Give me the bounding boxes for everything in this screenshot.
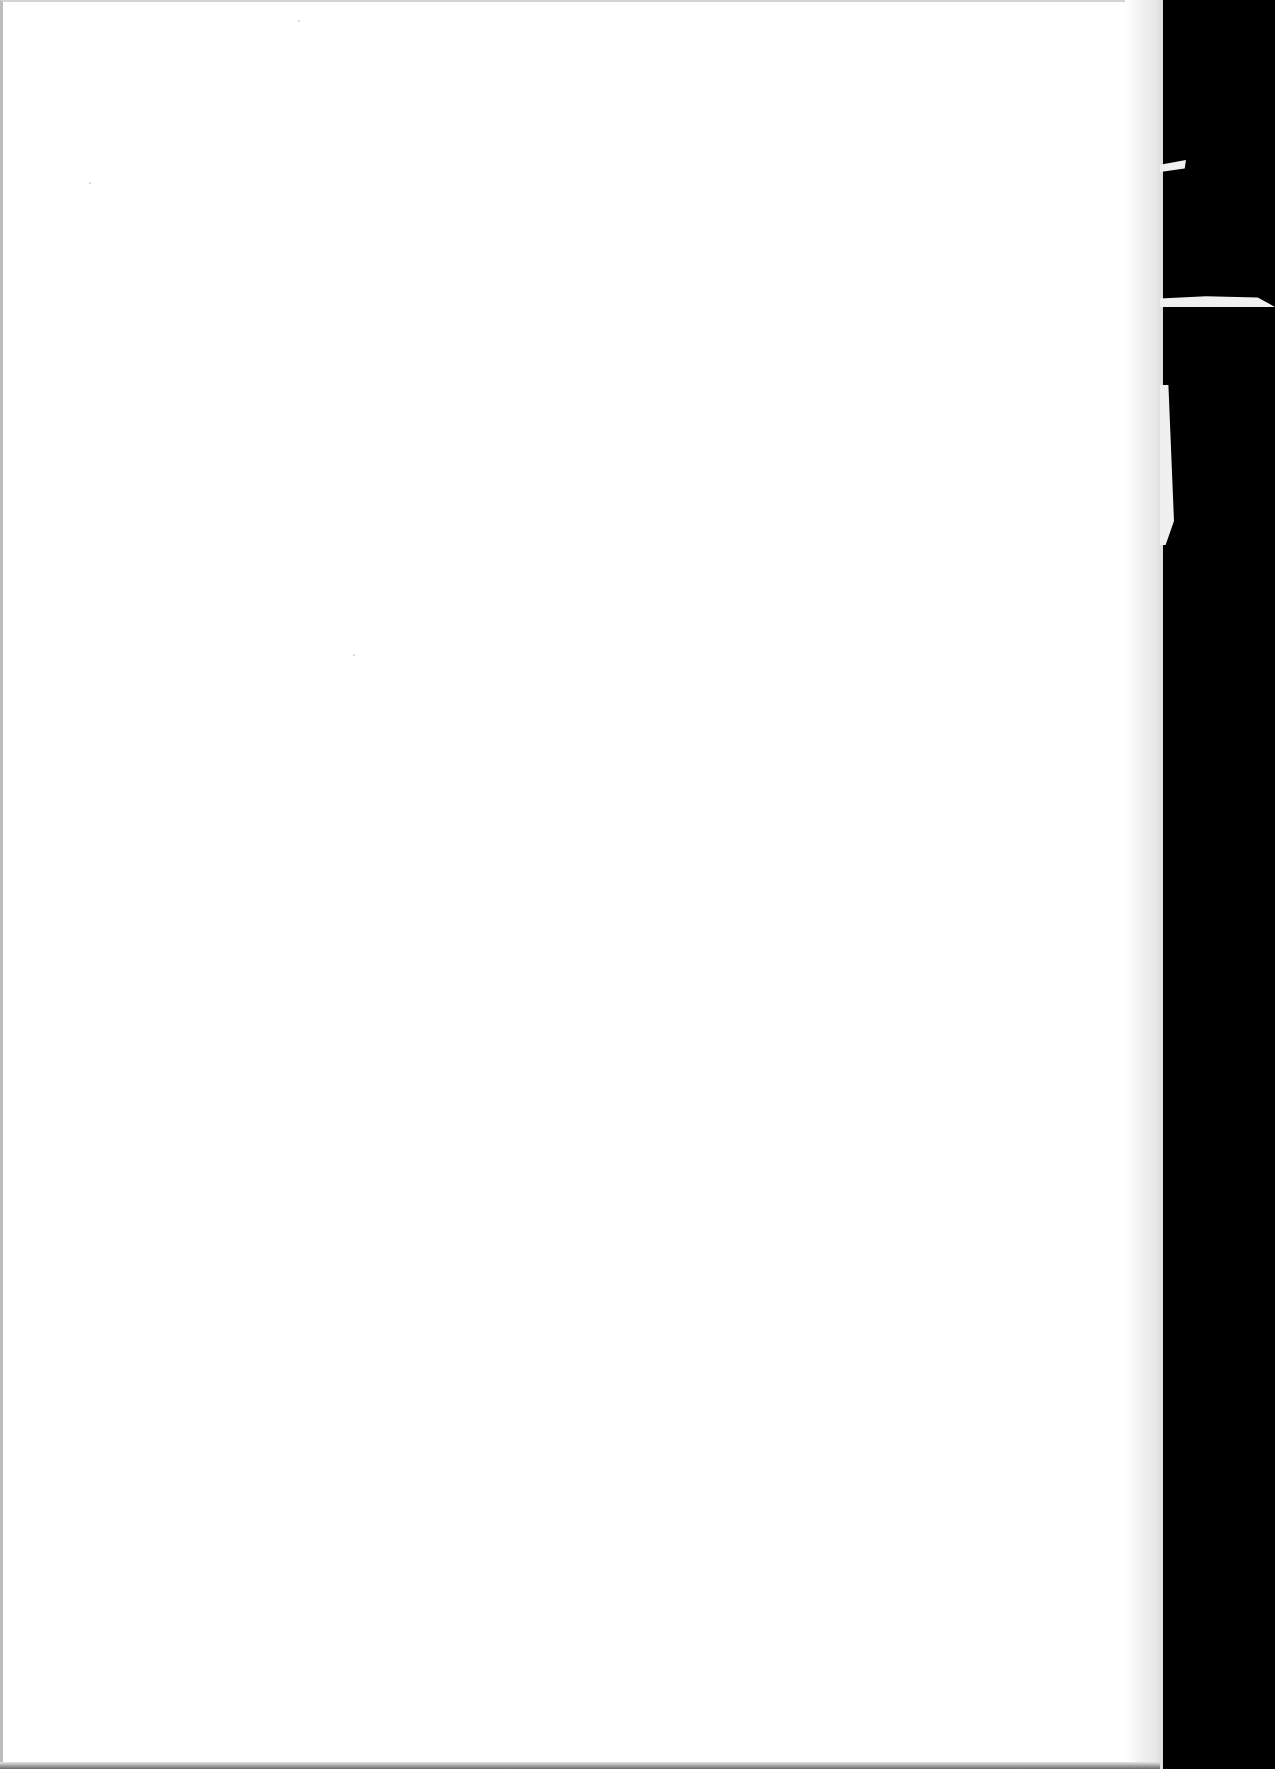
scanned-document	[0, 0, 1275, 1769]
paper-tab-fragment	[1160, 160, 1186, 172]
paper-tab-fragment	[1160, 385, 1174, 545]
page-edge-shadow	[1125, 0, 1163, 1769]
dust-speck	[353, 654, 355, 656]
dust-speck	[89, 182, 91, 184]
paper-tab-fragment	[1160, 295, 1275, 307]
blank-page	[0, 0, 1160, 1765]
dust-speck	[298, 20, 300, 22]
page-bottom-edge	[0, 1762, 1160, 1769]
